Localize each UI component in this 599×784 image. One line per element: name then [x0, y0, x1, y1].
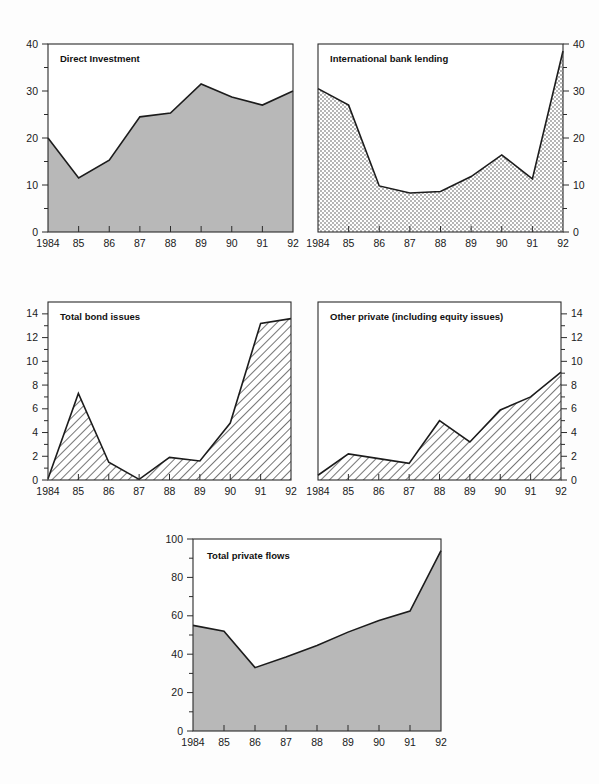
x-tick-label: 86 — [373, 485, 385, 497]
x-tick-label: 91 — [257, 237, 269, 249]
y-tick-label: 40 — [26, 38, 38, 50]
x-tick-label: 85 — [73, 485, 85, 497]
x-tick-label: 1984 — [306, 485, 330, 497]
x-tick-label: 1984 — [36, 237, 60, 249]
x-tick-label: 88 — [435, 237, 447, 249]
y-tick-label: 20 — [171, 686, 183, 698]
figure-page: 01020304019848586878889909192Direct Inve… — [0, 0, 599, 784]
x-tick-label: 91 — [525, 485, 537, 497]
x-tick-label: 90 — [226, 237, 238, 249]
chart-title: Other private (including equity issues) — [330, 311, 503, 322]
y-tick-label: 0 — [571, 474, 577, 486]
chart-svg-total-bond-issues: 0246810121419848586878889909192Total bon… — [14, 288, 304, 513]
x-tick-label: 92 — [555, 485, 567, 497]
y-tick-label: 0 — [177, 725, 183, 737]
y-tick-label: 40 — [171, 648, 183, 660]
x-tick-label: 92 — [557, 237, 569, 249]
x-tick-label: 88 — [164, 485, 176, 497]
x-tick-label: 87 — [133, 485, 145, 497]
y-tick-label: 14 — [571, 307, 583, 319]
y-tick-label: 6 — [32, 402, 38, 414]
y-tick-label: 10 — [26, 355, 38, 367]
x-tick-label: 92 — [287, 237, 299, 249]
chart-panel-international-bank-lending: 01020304019848586878889909192Internation… — [300, 30, 590, 265]
chart-title: Total bond issues — [60, 311, 140, 322]
y-tick-label: 2 — [571, 450, 577, 462]
x-tick-label: 85 — [218, 736, 230, 748]
x-tick-label: 87 — [280, 736, 292, 748]
x-tick-label: 88 — [434, 485, 446, 497]
y-tick-label: 60 — [171, 609, 183, 621]
y-tick-label: 30 — [26, 85, 38, 97]
chart-svg-international-bank-lending: 01020304019848586878889909192Internation… — [300, 30, 590, 265]
x-tick-label: 90 — [494, 485, 506, 497]
x-tick-label: 92 — [435, 736, 447, 748]
x-tick-label: 89 — [464, 485, 476, 497]
x-tick-label: 90 — [373, 736, 385, 748]
y-tick-label: 10 — [573, 179, 585, 191]
chart-panel-total-private-flows: 02040608010019848586878889909192Total pr… — [155, 525, 455, 760]
chart-title: International bank lending — [330, 53, 448, 64]
chart-panel-other-private: 0246810121419848586878889909192Other pri… — [300, 288, 590, 513]
x-tick-label: 91 — [527, 237, 539, 249]
x-tick-label: 86 — [249, 736, 261, 748]
x-tick-label: 86 — [373, 237, 385, 249]
chart-title: Total private flows — [207, 550, 290, 561]
x-tick-label: 90 — [496, 237, 508, 249]
x-tick-label: 89 — [465, 237, 477, 249]
y-tick-label: 12 — [571, 331, 583, 343]
x-tick-label: 1984 — [181, 736, 205, 748]
y-tick-label: 12 — [26, 331, 38, 343]
y-tick-label: 4 — [32, 426, 38, 438]
chart-panel-direct-investment: 01020304019848586878889909192Direct Inve… — [14, 30, 304, 265]
y-tick-label: 4 — [571, 426, 577, 438]
chart-svg-direct-investment: 01020304019848586878889909192Direct Inve… — [14, 30, 304, 265]
y-tick-label: 10 — [26, 179, 38, 191]
x-tick-label: 88 — [165, 237, 177, 249]
x-tick-label: 91 — [404, 736, 416, 748]
x-tick-label: 86 — [103, 485, 115, 497]
x-tick-label: 85 — [343, 237, 355, 249]
x-tick-label: 92 — [285, 485, 297, 497]
chart-svg-other-private: 0246810121419848586878889909192Other pri… — [300, 288, 590, 513]
y-tick-label: 2 — [32, 450, 38, 462]
y-tick-label: 8 — [571, 379, 577, 391]
x-tick-label: 88 — [311, 736, 323, 748]
x-tick-label: 1984 — [36, 485, 60, 497]
x-tick-label: 87 — [134, 237, 146, 249]
chart-title: Direct Investment — [60, 53, 141, 64]
y-tick-label: 6 — [571, 402, 577, 414]
chart-panel-total-bond-issues: 0246810121419848586878889909192Total bon… — [14, 288, 304, 513]
x-tick-label: 1984 — [306, 237, 330, 249]
x-tick-label: 85 — [343, 485, 355, 497]
y-tick-label: 8 — [32, 379, 38, 391]
y-tick-label: 0 — [573, 226, 579, 238]
y-tick-label: 40 — [573, 38, 585, 50]
x-tick-label: 91 — [255, 485, 267, 497]
y-tick-label: 0 — [32, 474, 38, 486]
y-tick-label: 10 — [571, 355, 583, 367]
y-tick-label: 80 — [171, 571, 183, 583]
x-tick-label: 89 — [194, 485, 206, 497]
x-tick-label: 87 — [404, 237, 416, 249]
y-tick-label: 14 — [26, 307, 38, 319]
x-tick-label: 87 — [403, 485, 415, 497]
x-tick-label: 85 — [73, 237, 85, 249]
x-tick-label: 89 — [195, 237, 207, 249]
chart-svg-total-private-flows: 02040608010019848586878889909192Total pr… — [155, 525, 455, 760]
x-tick-label: 89 — [342, 736, 354, 748]
y-tick-label: 30 — [573, 85, 585, 97]
y-tick-label: 0 — [32, 226, 38, 238]
x-tick-label: 86 — [103, 237, 115, 249]
y-tick-label: 20 — [26, 132, 38, 144]
x-tick-label: 90 — [224, 485, 236, 497]
y-tick-label: 20 — [573, 132, 585, 144]
y-tick-label: 100 — [165, 533, 183, 545]
